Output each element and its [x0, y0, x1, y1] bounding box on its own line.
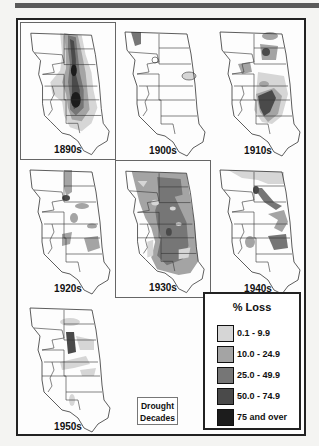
legend-item-label: 75 and over	[237, 412, 287, 422]
legend-item: 75 and over	[217, 408, 287, 426]
map-1890s	[21, 23, 115, 159]
swatch-0-10	[217, 325, 234, 342]
map-panel-1890s: 1890s	[20, 22, 116, 160]
drought-decades-note: Drought Decades	[137, 397, 178, 425]
decade-label: 1950s	[20, 421, 116, 432]
caption-line-1: Drought	[138, 400, 177, 412]
legend-item: 50.0 - 74.9	[217, 387, 280, 405]
decade-label: 1890s	[21, 144, 115, 155]
swatch-50-75	[217, 388, 234, 405]
swatch-10-25	[217, 346, 234, 363]
swatch-75-plus	[217, 409, 234, 426]
map-1910s	[210, 22, 306, 160]
map-1940s	[210, 160, 306, 298]
legend-item: 10.0 - 24.9	[217, 345, 280, 363]
legend-title: % Loss	[205, 301, 299, 313]
legend-item-label: 10.0 - 24.9	[237, 349, 280, 359]
legend-item-label: 25.0 - 49.9	[237, 370, 280, 380]
top-rule	[15, 3, 319, 8]
map-1950s	[20, 298, 116, 436]
map-panel-1910s: 1910s	[210, 22, 306, 160]
map-panel-1900s: 1900s	[115, 22, 211, 160]
map-panel-1930s: 1930s	[115, 160, 211, 298]
caption-line-2: Decades	[138, 412, 177, 424]
figure-frame: 1890s 1900s 1	[16, 18, 306, 436]
decade-label: 1900s	[115, 145, 211, 156]
legend-item-label: 0.1 - 9.9	[237, 328, 270, 338]
map-1920s	[20, 160, 116, 298]
legend-item: 0.1 - 9.9	[217, 324, 270, 342]
decade-label: 1920s	[20, 283, 116, 294]
map-1930s	[116, 161, 210, 297]
legend-item: 25.0 - 49.9	[217, 366, 280, 384]
decade-label: 1930s	[116, 282, 210, 293]
map-panel-1920s: 1920s	[20, 160, 116, 298]
map-panel-1950s: 1950s	[20, 298, 116, 436]
legend: % Loss 0.1 - 9.9 10.0 - 24.9 25.0 - 49.9…	[203, 292, 301, 430]
swatch-25-50	[217, 367, 234, 384]
map-1900s	[115, 22, 211, 160]
decade-label: 1910s	[210, 145, 306, 156]
legend-item-label: 50.0 - 74.9	[237, 391, 280, 401]
map-panel-1940s: 1940s	[210, 160, 306, 298]
